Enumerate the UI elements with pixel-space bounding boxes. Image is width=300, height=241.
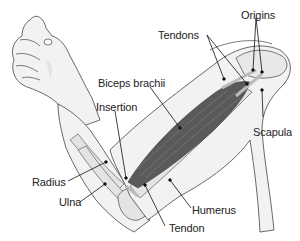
arm-anatomy-diagram <box>0 0 300 241</box>
label-origins: Origins <box>241 9 275 21</box>
label-biceps-brachii: Biceps brachii <box>98 77 165 89</box>
label-scapula: Scapula <box>253 126 292 138</box>
label-ulna: Ulna <box>59 196 81 208</box>
label-insertion: Insertion <box>96 101 137 113</box>
label-tendons: Tendons <box>158 29 199 41</box>
hand-illustration <box>12 16 100 130</box>
label-radius: Radius <box>32 176 66 188</box>
label-humerus: Humerus <box>192 204 236 216</box>
label-tendon: Tendon <box>169 222 205 234</box>
